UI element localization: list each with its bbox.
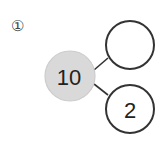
part-circle-bottom: 2 (106, 85, 154, 133)
connector-line-top (94, 58, 108, 70)
whole-value: 10 (57, 65, 81, 90)
part-value-bottom: 2 (124, 98, 136, 123)
whole-circle: 10 (45, 51, 95, 101)
connector-line-bottom (94, 84, 108, 95)
number-bond-diagram: 10 2 (0, 0, 162, 141)
part-circle-top[interactable] (106, 21, 154, 69)
